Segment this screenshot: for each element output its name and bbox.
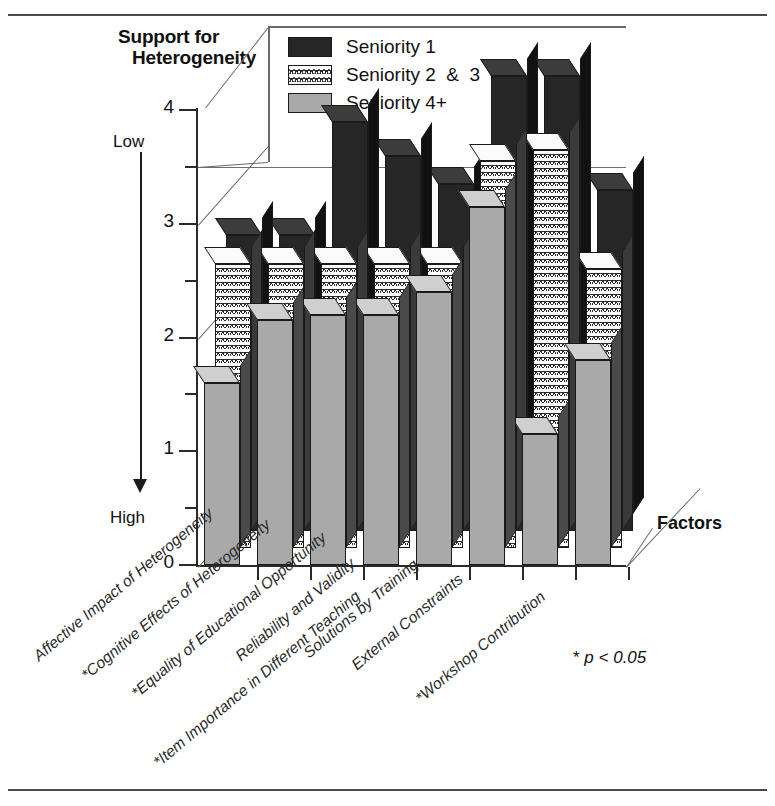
- plot-area: 01234: [0, 0, 775, 806]
- y-tick-0: [179, 564, 196, 566]
- y-tick-2: [179, 337, 196, 339]
- bar-side-face: [633, 156, 644, 514]
- back-wall-left-edge: [268, 26, 270, 162]
- bar-3-series-3: [310, 315, 346, 565]
- bar-side-face: [505, 173, 516, 548]
- y-minor-tick: [185, 507, 196, 509]
- bar-side-face: [611, 326, 622, 548]
- x-tick: [628, 567, 630, 580]
- bar-top-face: [215, 218, 262, 235]
- bar-5-series-3: [416, 292, 452, 565]
- y-tick-4: [179, 109, 196, 111]
- bar-front-face: [310, 315, 346, 565]
- x-tick: [575, 567, 577, 580]
- bar-7-series-3: [522, 434, 558, 565]
- y-tick-label: 3: [148, 210, 174, 232]
- bar-front-face: [575, 360, 611, 565]
- y-tick-1: [179, 450, 196, 452]
- bar-top-face: [374, 139, 421, 156]
- bar-front-face: [416, 292, 452, 565]
- bar-top-face: [533, 59, 580, 76]
- wall-depth-edge-top-left: [205, 27, 269, 109]
- bar-top-face: [480, 59, 527, 76]
- x-axis-depth-tick-right: [626, 528, 653, 568]
- bar-side-face: [558, 400, 569, 548]
- bar-top-face: [427, 167, 474, 184]
- bar-side-face: [346, 281, 357, 548]
- x-tick: [310, 567, 312, 580]
- y-tick-label: 2: [148, 324, 174, 346]
- bar-side-face: [452, 258, 463, 548]
- bar-side-face: [240, 349, 251, 548]
- bar-side-face: [622, 235, 633, 531]
- bar-side-face: [399, 281, 410, 548]
- y-tick-label: 4: [148, 96, 174, 118]
- bar-4-series-3: [363, 315, 399, 565]
- y-minor-tick: [185, 280, 196, 282]
- bar-8-series-3: [575, 360, 611, 565]
- bar-front-face: [522, 434, 558, 565]
- bar-top-face: [586, 173, 633, 190]
- bar-top-face: [321, 105, 368, 122]
- x-tick: [522, 567, 524, 580]
- y-minor-tick: [185, 166, 196, 168]
- bar-top-face: [268, 218, 315, 235]
- y-tick-3: [179, 223, 196, 225]
- bar-front-face: [363, 315, 399, 565]
- depth-edge-3: [198, 146, 269, 226]
- x-tick: [469, 567, 471, 580]
- y-tick-label: 1: [148, 437, 174, 459]
- bar-side-face: [293, 286, 304, 548]
- bar-6-series-3: [469, 207, 505, 565]
- bar-front-face: [469, 207, 505, 565]
- back-wall-top-edge: [268, 26, 626, 28]
- x-tick: [363, 567, 365, 580]
- y-minor-tick: [185, 393, 196, 395]
